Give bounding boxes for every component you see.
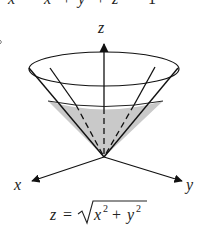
z-axis-label: z [97, 19, 105, 36]
cone-eq-plus: + [112, 206, 121, 223]
x-axis [32, 157, 104, 181]
shaded-cone-region [48, 101, 163, 157]
cone-diagram: x x 2 + y 2 + z 2 = 1 z x y z = x 2 + y … [0, 0, 198, 247]
sphere-eq-plus1: + [62, 0, 71, 7]
sphere-left-label: x [7, 0, 15, 7]
cone-eq-y: y [125, 206, 135, 224]
cone-eq-exp2: 2 [136, 203, 141, 214]
cone-eq-exp1: 2 [103, 203, 108, 214]
sphere-eq-plus2: + [96, 0, 105, 7]
generator-left-solid [50, 68, 76, 105]
sphere-eq-rhs: 1 [148, 0, 156, 7]
sphere-eq-y: y [76, 0, 86, 8]
sphere-equation: x x 2 + y 2 + z 2 = 1 [7, 0, 156, 8]
sphere-eq-z: z [111, 0, 119, 7]
sphere-eq-x: x [43, 0, 51, 7]
cone-eq-equals: = [63, 206, 72, 223]
cone-equation: z = x 2 + y 2 [49, 201, 147, 224]
y-axis-label: y [184, 176, 194, 194]
x-axis-label: x [13, 176, 21, 193]
cone-eq-lhs: z [49, 206, 57, 223]
cone-eq-x: x [93, 206, 101, 223]
stray-mark [0, 40, 2, 44]
y-axis [104, 157, 182, 181]
sphere-eq-equals: = [132, 0, 141, 7]
